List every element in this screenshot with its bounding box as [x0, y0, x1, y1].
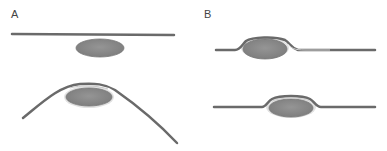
panel-a-top-diagram: [12, 34, 174, 57]
panel-a-bottom-diagram: [23, 84, 177, 143]
panel-b-bottom-diagram: [214, 96, 375, 118]
membrane-line: [216, 37, 375, 50]
vesicle-ellipse: [243, 39, 287, 59]
vesicle-ellipse: [66, 88, 112, 106]
vesicle-ellipse: [76, 39, 124, 57]
panel-b-top-diagram: [216, 37, 375, 59]
vesicle-ellipse: [269, 99, 313, 117]
diagram-canvas: [0, 0, 387, 151]
membrane-line: [12, 34, 174, 35]
